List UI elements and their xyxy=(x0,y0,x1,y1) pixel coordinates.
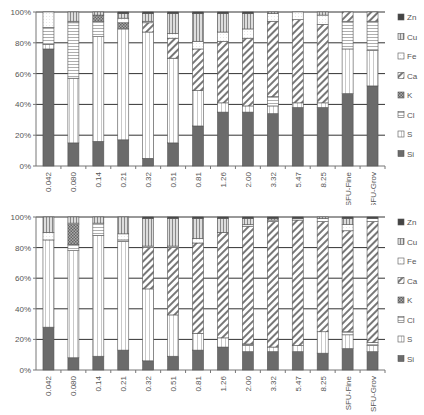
k-legend-swatch xyxy=(398,92,404,98)
legend-label-zn: Zn xyxy=(407,218,416,227)
bar-segment-cu xyxy=(168,14,179,34)
bar-segment-fe xyxy=(43,232,54,240)
bar-segment-si xyxy=(68,143,79,166)
bar-segment-s xyxy=(367,51,378,86)
bar-segment-cl xyxy=(367,342,378,345)
x-tick-label: 0.080 xyxy=(69,375,78,396)
legend-label-s: S xyxy=(407,335,412,344)
bar-segment-s xyxy=(68,251,79,358)
bar-segment-cu xyxy=(342,219,353,225)
bar-segment-ca xyxy=(143,23,154,32)
legend-label-k: K xyxy=(407,91,413,100)
bar-segment-s xyxy=(93,37,104,142)
bar-segment-fe xyxy=(193,238,204,243)
bar-segment-cu xyxy=(118,217,129,234)
bar-segment-fe xyxy=(168,34,179,39)
bar-segment-s xyxy=(43,44,54,49)
x-tick-label: 5.47 xyxy=(294,171,303,187)
bar-segment-s xyxy=(342,49,353,94)
bar-stack-8.25 xyxy=(317,12,328,166)
bar-segment-zn xyxy=(217,217,228,219)
bar-segment-cl xyxy=(68,245,79,251)
legend-label-cl: Cl xyxy=(407,316,415,325)
bar-segment-ca xyxy=(317,222,328,332)
bar-segment-zn xyxy=(367,217,378,219)
legend-label-zn: Zn xyxy=(407,13,416,22)
bar-segment-si xyxy=(367,352,378,370)
x-tick-label: 1.26 xyxy=(219,171,228,187)
bar-segment-si xyxy=(143,361,154,370)
bar-segment-cu xyxy=(93,12,104,15)
bar-segment-si xyxy=(342,349,353,370)
chart-top: 0%20%40%60%80%100%0.0420.0800.140.210.32… xyxy=(0,0,424,205)
x-tick-label: SFU-Fine xyxy=(344,375,353,410)
legend-label-cu: Cu xyxy=(407,238,417,247)
y-tick-label: 0% xyxy=(19,162,31,171)
bar-segment-zn xyxy=(143,12,154,14)
bar-segment-cu xyxy=(217,14,228,32)
bar-segment-zn xyxy=(217,12,228,14)
x-tick-label: 2.00 xyxy=(244,375,253,391)
bar-segment-ca xyxy=(242,38,253,106)
bar-segment-cu xyxy=(93,217,104,223)
bar-segment-zn xyxy=(168,12,179,14)
bar-segment-s xyxy=(68,78,79,143)
bar-segment-si xyxy=(68,358,79,370)
bar-segment-fe xyxy=(367,219,378,222)
bar-segment-si xyxy=(292,107,303,166)
y-tick-label: 20% xyxy=(15,131,31,140)
bar-segment-s xyxy=(292,103,303,108)
bar-segment-cl xyxy=(267,97,278,106)
bar-segment-ca xyxy=(342,231,353,332)
k-legend-swatch xyxy=(398,297,404,303)
bar-segment-si xyxy=(342,94,353,166)
bar-segment-s xyxy=(168,58,179,143)
bar-segment-zn xyxy=(292,217,303,219)
bar-segment-cl xyxy=(68,23,79,78)
legend: ZnCuFeCaKClSSi xyxy=(398,13,418,159)
y-tick-label: 0% xyxy=(19,366,31,375)
x-tick-label: 0.080 xyxy=(69,171,78,192)
y-tick-label: 100% xyxy=(11,213,31,222)
bar-segment-si xyxy=(217,112,228,166)
x-tick-label: 3.32 xyxy=(269,171,278,187)
bar-segment-fe xyxy=(317,15,328,24)
bar-segment-ca xyxy=(292,220,303,345)
bar-segment-ca xyxy=(317,24,328,103)
bar-segment-k xyxy=(93,15,104,21)
bar-stack-SFU-Grov xyxy=(367,12,378,166)
bar-segment-si xyxy=(267,114,278,166)
y-tick-label: 40% xyxy=(15,305,31,314)
bar-stack-5.47 xyxy=(292,12,303,166)
x-tick-label: 0.14 xyxy=(94,375,103,391)
bar-stack-0.32 xyxy=(143,217,154,370)
x-tick-label: 0.51 xyxy=(169,171,178,187)
zn-legend-swatch xyxy=(398,14,404,20)
bar-segment-ca xyxy=(367,12,378,21)
x-tick-label: SFU-Grov xyxy=(369,172,378,205)
bar-segment-s xyxy=(242,346,253,352)
x-tick-label: 0.81 xyxy=(194,171,203,187)
bar-stack-0.042 xyxy=(43,217,54,370)
bar-segment-ca xyxy=(217,232,228,338)
bar-segment-s xyxy=(118,241,129,350)
x-tick-label: 0.21 xyxy=(119,171,128,187)
x-tick-label: 5.47 xyxy=(294,375,303,391)
bar-segment-ca xyxy=(267,21,278,96)
bar-segment-zn xyxy=(118,12,129,14)
bar-segment-s xyxy=(93,235,104,356)
y-tick-label: 20% xyxy=(15,335,31,344)
bar-segment-k xyxy=(118,23,129,29)
legend-label-si: Si xyxy=(407,355,414,364)
bar-segment-cu xyxy=(143,219,154,247)
s-legend-swatch xyxy=(398,336,404,342)
bar-stack-0.14 xyxy=(93,217,104,370)
bar-segment-fe xyxy=(193,41,204,49)
bar-segment-zn xyxy=(342,217,353,219)
bar-segment-si xyxy=(93,141,104,166)
bar-segment-ca xyxy=(242,226,253,344)
bar-segment-si xyxy=(317,107,328,166)
bar-segment-si xyxy=(93,356,104,370)
bar-segment-cu xyxy=(317,12,328,15)
bar-stack-3.32 xyxy=(267,217,278,370)
